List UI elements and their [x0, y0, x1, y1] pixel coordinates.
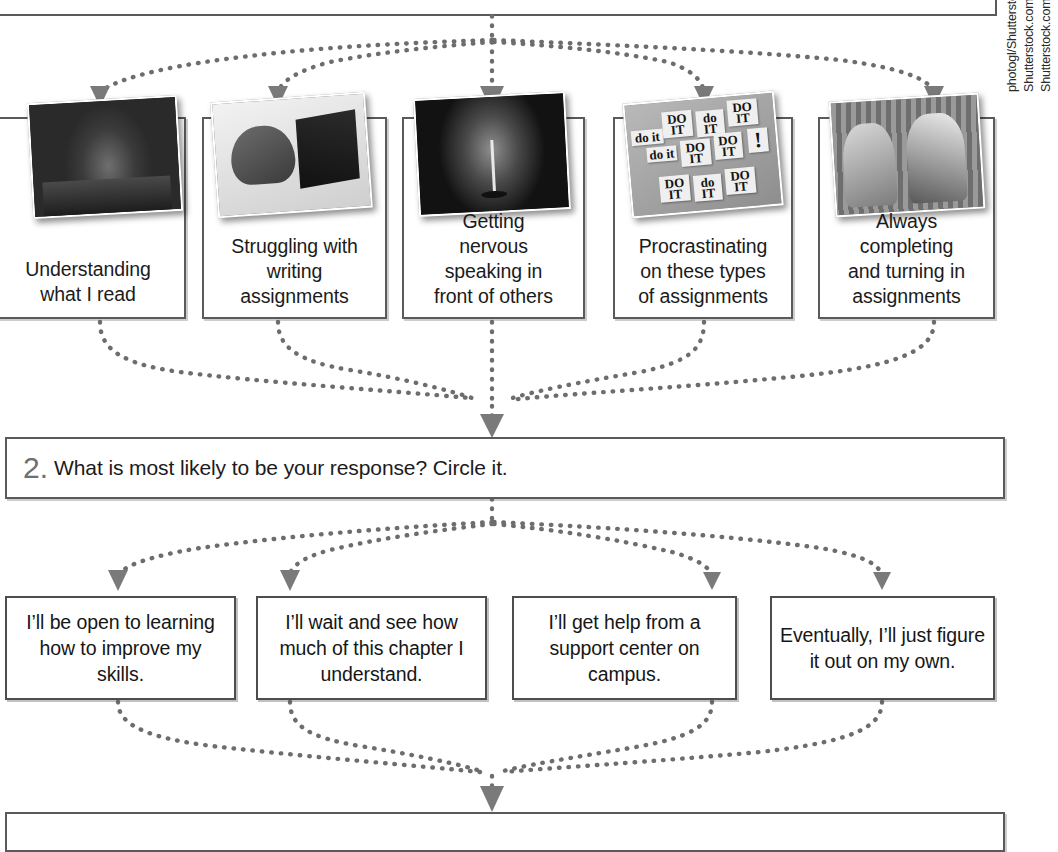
option-caption: Getting nervous speaking in front of oth… [404, 209, 583, 309]
response-text: Eventually, I’ll just figure it out on m… [780, 622, 985, 674]
connector-response-4-to-bottom [504, 702, 882, 772]
response-text: I’ll wait and see how much of this chapt… [266, 609, 477, 687]
photo-credit-line: Shutterstock.com; marekuliasz/Shuttersto… [1038, 0, 1055, 92]
connector-q2-to-response-4 [494, 522, 882, 576]
bottom-question-box [5, 812, 1005, 852]
arrowhead-response-4 [873, 572, 891, 590]
connector-to-option-5 [494, 40, 934, 92]
question-2-box: 2. What is most likely to be your respon… [5, 437, 1005, 499]
sticky-note: do IT [693, 174, 723, 202]
connector-to-option-4 [494, 42, 704, 92]
response-card-figure-it-out[interactable]: Eventually, I’ll just figure it out on m… [770, 596, 995, 700]
connector-option-2-to-q2 [278, 322, 478, 400]
option-card-writing[interactable]: Struggling with writing assignments [202, 117, 387, 319]
question-2-text: What is most likely to be your response?… [54, 456, 508, 480]
connector-response-1-to-bottom [118, 702, 480, 772]
connector-q2-to-response-3 [494, 524, 712, 576]
connector-q2-to-response-2 [290, 524, 492, 576]
option-card-speaking[interactable]: Getting nervous speaking in front of oth… [402, 117, 585, 319]
connector-option-1-to-q2 [100, 322, 470, 398]
top-prompt-box [0, 0, 997, 16]
connector-to-option-2 [278, 42, 492, 92]
sticky-note: DO IT [724, 167, 756, 196]
option-caption: Always completing and turning in assignm… [820, 209, 993, 309]
student-at-laptop-photo [210, 92, 373, 219]
sticky-notes-surface: do it DO IT do IT DO IT do it DO IT DO I… [624, 93, 781, 216]
option-card-understanding[interactable]: Understanding what I read [0, 117, 186, 319]
option-caption: Procrastinating on these types of assign… [615, 234, 791, 309]
arrowhead-question-2 [480, 414, 504, 438]
response-text: I’ll get help from a support center on c… [522, 609, 727, 687]
option-card-completing[interactable]: Always completing and turning in assignm… [818, 117, 995, 319]
sticky-note-exclamation: ! [747, 127, 769, 153]
sticky-note: DO IT [713, 132, 743, 160]
connector-response-2-to-bottom [290, 702, 484, 772]
photo-credit: photogl/Shutterstock.com; leolintang/ Sh… [1004, 0, 1055, 92]
option-card-procrastinating[interactable]: do it DO IT do IT DO IT do it DO IT DO I… [613, 117, 793, 319]
two-students-at-desk-photo [829, 93, 986, 218]
connector-response-3-to-bottom [500, 702, 712, 772]
option-caption: Struggling with writing assignments [204, 234, 385, 309]
sticky-note: do it [646, 145, 677, 163]
arrowhead-response-1 [108, 570, 128, 591]
connector-option-4-to-q2 [506, 322, 704, 400]
response-text: I’ll be open to learning how to improve … [15, 609, 226, 687]
response-card-wait-and-see[interactable]: I’ll wait and see how much of this chapt… [256, 596, 487, 700]
photo-credit-line: Shutterstock.com; Sarah Holmlund/ [1021, 0, 1038, 92]
response-card-get-help[interactable]: I’ll get help from a support center on c… [512, 596, 737, 700]
sticky-note: do it [631, 128, 664, 146]
microphone-on-stage-photo [413, 91, 571, 217]
connector-to-option-1 [100, 40, 492, 92]
sticky-note: DO IT [726, 98, 758, 127]
response-card-open-to-learning[interactable]: I’ll be open to learning how to improve … [5, 596, 236, 700]
student-in-library-photo [27, 95, 183, 219]
sticky-note: DO IT [661, 110, 693, 139]
connector-option-5-to-q2 [510, 322, 934, 400]
question-2-number: 2. [7, 453, 54, 483]
do-it-sticky-notes-photo: do it DO IT do IT DO IT do it DO IT DO I… [622, 91, 783, 219]
sticky-note: DO IT [659, 174, 691, 203]
arrowhead-response-3 [703, 572, 721, 590]
option-caption: Understanding what I read [0, 257, 184, 307]
connector-q2-to-response-1 [118, 522, 492, 576]
sticky-note: DO IT [680, 138, 712, 167]
arrowhead-response-2 [280, 570, 300, 591]
arrowhead-bottom-question [480, 786, 504, 812]
photo-credit-line: photogl/Shutterstock.com; leolintang/ [1004, 0, 1021, 92]
